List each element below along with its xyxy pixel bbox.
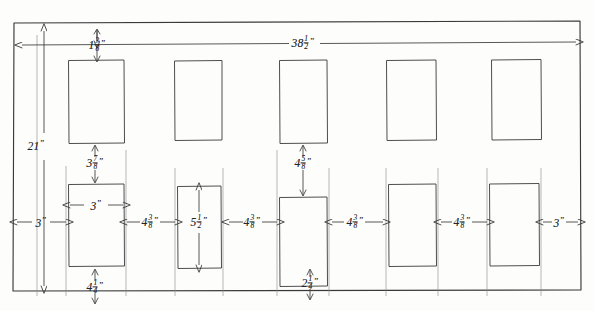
label-top-margin: 138” — [89, 37, 106, 52]
label-gap-below-top-left: 378” — [87, 155, 104, 170]
bottom-rect-4 — [389, 184, 437, 267]
top-rect-5 — [492, 60, 542, 141]
bottom-rect-5 — [490, 184, 540, 267]
label-overall-width: 3812” — [292, 35, 315, 50]
bottom-rect-3 — [280, 197, 328, 287]
label-bottom-offset-left: 414” — [87, 279, 104, 294]
label-right-margin: 3” — [553, 215, 564, 228]
label-gap-3: 438” — [347, 214, 364, 229]
label-rect-width: 3” — [90, 198, 101, 211]
extension-lines — [37, 35, 541, 296]
top-rect-4 — [387, 60, 437, 141]
drawing-canvas: 3812” 21” 138” 378” 458” 3” 3” 438” 512”… — [0, 0, 594, 311]
label-gap-2: 438” — [244, 214, 261, 229]
label-bottom-offset-center: 214” — [302, 275, 319, 290]
top-rect-1 — [69, 60, 125, 144]
top-rect-3 — [280, 60, 328, 144]
label-rect-height: 512” — [191, 214, 208, 229]
bottom-row-group — [69, 184, 540, 287]
label-gap-below-top-center: 458” — [295, 155, 312, 170]
label-gap-1: 438” — [142, 214, 159, 229]
top-row-group — [69, 60, 542, 144]
label-left-margin: 3” — [35, 215, 46, 228]
label-gap-4: 438” — [454, 214, 471, 229]
bottom-rect-1 — [69, 184, 125, 267]
label-overall-height: 21” — [27, 138, 44, 151]
top-rect-2 — [175, 61, 223, 141]
